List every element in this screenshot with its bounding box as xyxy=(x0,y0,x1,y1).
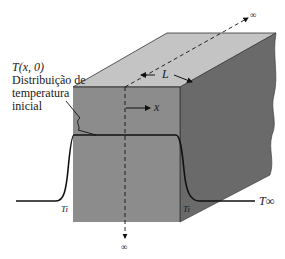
front-face xyxy=(73,87,180,222)
infinity-top-label: ∞ xyxy=(250,9,256,22)
infinity-bottom-label: ∞ xyxy=(121,241,127,254)
t-right-label: Ti xyxy=(183,203,190,216)
slab-diagram xyxy=(0,0,285,259)
thickness-label: L xyxy=(162,68,169,81)
t-left-label: Ti xyxy=(61,203,68,216)
initial-dist-label: T(x, 0) Distribuição de temperatura inic… xyxy=(12,61,86,113)
x-axis-label: x xyxy=(154,101,159,114)
t-ambient-label: T∞ xyxy=(259,195,274,208)
initial-dist-line4: inicial xyxy=(12,100,86,113)
